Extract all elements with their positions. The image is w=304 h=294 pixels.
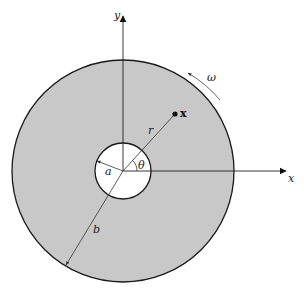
annulus-diagram: y x ω x r θ a b — [0, 0, 304, 294]
b-label: b — [93, 223, 100, 236]
r-label: r — [148, 124, 154, 137]
y-axis-label: y — [113, 9, 121, 22]
a-label: a — [105, 165, 112, 178]
x-axis-label: x — [288, 172, 295, 185]
point-x-label: x — [180, 107, 187, 120]
omega-label: ω — [207, 71, 216, 84]
theta-label: θ — [138, 159, 145, 172]
point-x-dot — [172, 111, 177, 116]
